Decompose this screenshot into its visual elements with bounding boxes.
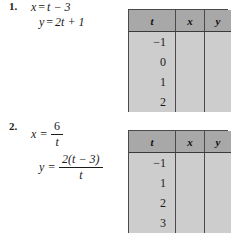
table-row: 3	[129, 213, 231, 233]
table-body: −1 1 2 3	[129, 153, 231, 234]
table-body: −1 0 1 2	[129, 32, 231, 113]
cell-x[interactable]	[176, 92, 205, 112]
problem-1: 1. x=t − 3 y=2t + 1 t x y −1	[0, 0, 245, 120]
equals-sign: =	[36, 0, 47, 14]
column-header-x: x	[176, 10, 205, 32]
cell-y[interactable]	[205, 32, 232, 53]
table-row: 2	[129, 193, 231, 213]
cell-x[interactable]	[176, 153, 205, 174]
problem-2-equation-y: y = 2(t − 3) t	[31, 153, 103, 181]
fraction-numerator: 2(t − 3)	[59, 153, 102, 167]
problem-1-table: t x y −1 0 1	[128, 9, 228, 112]
cell-t[interactable]: −1	[129, 32, 176, 53]
equals-sign: =	[44, 15, 55, 29]
table-header: t x y	[129, 131, 231, 153]
equation-rhs-x: t − 3	[47, 0, 70, 14]
problem-2: 2. x = 6 t y = 2(t − 3) t	[0, 120, 245, 244]
equals-sign: =	[44, 160, 59, 175]
cell-y[interactable]	[205, 193, 232, 213]
problem-2-table: t x y −1 1 2	[128, 130, 228, 233]
table-grid: t x y −1 0 1	[129, 10, 231, 112]
problem-1-equation-y: y=2t + 1	[31, 15, 85, 30]
table-row: 1	[129, 173, 231, 193]
table-row: 1	[129, 72, 231, 92]
table-row: 0	[129, 52, 231, 72]
fraction-denominator: t	[76, 168, 85, 182]
cell-t[interactable]: 3	[129, 213, 176, 233]
cell-x[interactable]	[176, 213, 205, 233]
column-header-t: t	[129, 10, 176, 32]
cell-y[interactable]	[205, 173, 232, 193]
problem-2-equation-list: x = 6 t y = 2(t − 3) t	[31, 120, 103, 186]
cell-t[interactable]: 2	[129, 193, 176, 213]
cell-t[interactable]: 1	[129, 72, 176, 92]
table-header-row: t x y	[129, 131, 231, 153]
table-header-row: t x y	[129, 10, 231, 32]
column-header-y: y	[205, 131, 232, 153]
fraction-denominator: t	[52, 135, 61, 149]
cell-x[interactable]	[176, 32, 205, 53]
cell-x[interactable]	[176, 52, 205, 72]
problem-2-number: 2.	[9, 120, 17, 132]
table-grid: t x y −1 1 2	[129, 131, 231, 233]
fraction-x: 6 t	[51, 120, 63, 148]
problem-2-equation-x: x = 6 t	[31, 120, 103, 148]
cell-y[interactable]	[205, 72, 232, 92]
table-row: −1	[129, 32, 231, 53]
problem-1-equation-x: x=t − 3	[31, 0, 85, 15]
equation-rhs-y: 2t + 1	[55, 15, 84, 29]
table-header: t x y	[129, 10, 231, 32]
cell-y[interactable]	[205, 52, 232, 72]
cell-t[interactable]: 0	[129, 52, 176, 72]
cell-y[interactable]	[205, 213, 232, 233]
cell-x[interactable]	[176, 173, 205, 193]
fraction-numerator: 6	[51, 120, 63, 134]
column-header-y: y	[205, 10, 232, 32]
cell-x[interactable]	[176, 72, 205, 92]
cell-y[interactable]	[205, 92, 232, 112]
equals-sign: =	[36, 127, 51, 142]
problem-1-equation-list: x=t − 3 y=2t + 1	[31, 0, 85, 30]
cell-t[interactable]: 2	[129, 92, 176, 112]
fraction-y: 2(t − 3) t	[59, 153, 102, 181]
cell-t[interactable]: −1	[129, 153, 176, 174]
problem-1-number: 1.	[9, 0, 17, 12]
column-header-x: x	[176, 131, 205, 153]
cell-x[interactable]	[176, 193, 205, 213]
table-row: −1	[129, 153, 231, 174]
column-header-t: t	[129, 131, 176, 153]
cell-y[interactable]	[205, 153, 232, 174]
table-row: 2	[129, 92, 231, 112]
cell-t[interactable]: 1	[129, 173, 176, 193]
